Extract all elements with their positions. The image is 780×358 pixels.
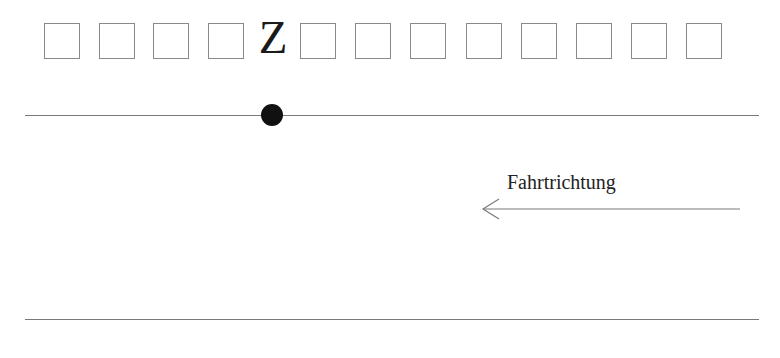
position-dot-icon — [261, 104, 283, 126]
cell-4 — [208, 23, 244, 59]
cell-10 — [576, 23, 612, 59]
cell-11 — [631, 23, 667, 59]
cell-7 — [410, 23, 446, 59]
cell-2 — [99, 23, 135, 59]
direction-label: Fahrtrichtung — [507, 170, 616, 194]
diagram: Z Fahrtrichtung — [0, 0, 780, 358]
cell-5 — [300, 23, 336, 59]
z-marker-label: Z — [256, 12, 290, 62]
cell-1 — [44, 23, 80, 59]
left-arrow-icon — [478, 195, 746, 223]
lane-top-line — [25, 115, 759, 116]
cell-8 — [466, 23, 502, 59]
cell-3 — [153, 23, 189, 59]
cell-12 — [686, 23, 722, 59]
cell-9 — [521, 23, 557, 59]
cell-6 — [355, 23, 391, 59]
lane-bottom-line — [25, 319, 759, 320]
